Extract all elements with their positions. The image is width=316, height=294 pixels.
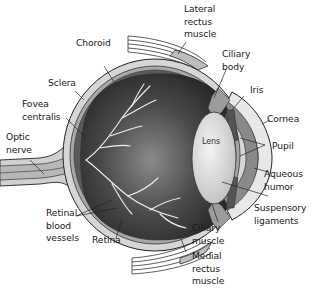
label-retinal-blood-vessels: Retinal blood vessels xyxy=(46,207,79,245)
label-retina: Retina xyxy=(92,234,121,247)
eye-diagram: Lateral rectus muscle Choroid Ciliary bo… xyxy=(0,0,316,294)
label-aqueous-humor: Aqueous humor xyxy=(264,168,303,193)
label-iris: Iris xyxy=(250,84,263,97)
label-pupil: Pupil xyxy=(272,140,294,153)
lens xyxy=(192,112,236,204)
label-optic-nerve: Optic nerve xyxy=(6,131,32,156)
label-lateral-rectus-muscle: Lateral rectus muscle xyxy=(184,3,216,41)
eye-illustration xyxy=(0,0,316,294)
label-sclera: Sclera xyxy=(48,77,76,90)
label-cornea: Cornea xyxy=(267,113,299,126)
label-suspensory-ligaments: Suspensory ligaments xyxy=(254,202,306,227)
label-fovea-centralis: Fovea centralis xyxy=(22,98,61,123)
label-medial-rectus-muscle: Medial rectus muscle xyxy=(192,250,224,288)
label-ciliary-body: Ciliary body xyxy=(222,48,250,73)
label-choroid: Choroid xyxy=(76,37,111,50)
label-ciliary-muscle: Ciliary muscle xyxy=(192,222,224,247)
label-lens: Lens xyxy=(202,136,220,149)
